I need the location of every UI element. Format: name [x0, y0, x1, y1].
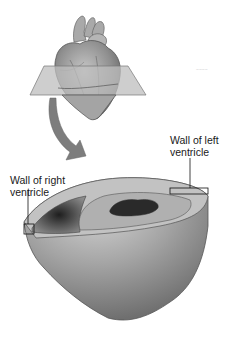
diagram-canvas: ~~~~ Wall of left ventricle Wall of righ… [0, 0, 231, 345]
label-line: Wall of right [10, 174, 65, 186]
label-line: Wall of left [170, 134, 219, 146]
heart-cross-section-illustration [0, 0, 231, 345]
faint-watermark: ~~~~ [196, 66, 208, 72]
label-line: ventricle [170, 146, 219, 158]
ventricle-cross-section [24, 178, 208, 320]
section-plane [30, 66, 146, 95]
label-left-ventricle-wall: Wall of left ventricle [170, 134, 219, 158]
label-right-ventricle-wall: Wall of right ventricle [10, 174, 65, 198]
label-line: ventricle [10, 186, 65, 198]
